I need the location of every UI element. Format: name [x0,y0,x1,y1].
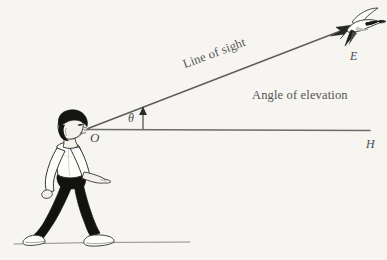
point-label-H: H [366,137,375,152]
bird-icon [345,8,386,46]
point-label-O: O [90,130,99,146]
point-label-E: E [350,49,357,64]
angle-symbol-theta: θ [128,111,134,126]
up-arrow-icon [139,107,147,130]
angle-of-elevation-figure: O H E θ Line of sight Angle of elevation [0,0,387,260]
angle-of-elevation-label: Angle of elevation [252,88,348,103]
diagram-canvas [0,0,387,260]
horizontal-line-OH [88,130,370,131]
